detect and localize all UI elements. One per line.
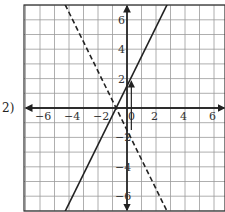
x-tick-label: 6: [209, 110, 216, 123]
y-tick-label: 4: [118, 43, 125, 56]
y-tick-label: 6: [118, 14, 125, 27]
coordinate-plane: −6−4−20246−6−4−2246: [0, 0, 225, 212]
y-tick-label: −2: [115, 131, 131, 144]
x-tick-label: 2: [151, 110, 158, 123]
y-tick-label: 2: [118, 73, 125, 86]
x-tick-label: −4: [64, 110, 80, 123]
x-tick-label: −2: [93, 110, 109, 123]
x-tick-label: −6: [35, 110, 51, 123]
y-tick-label: −4: [115, 161, 131, 174]
y-tick-label: −6: [115, 190, 131, 203]
x-tick-label: 4: [180, 110, 187, 123]
